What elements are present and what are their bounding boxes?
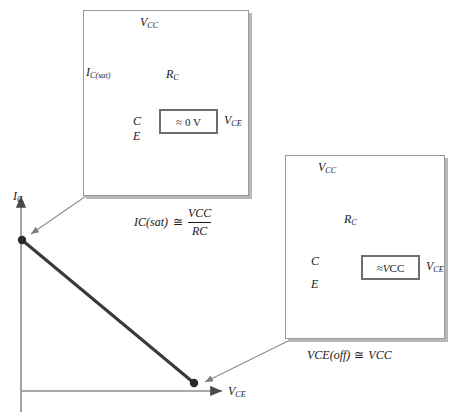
- caption-denominator: RC: [192, 224, 207, 239]
- figure-canvas: ≈ 0 V ≈VCC VCC RC IC(sat) C E VCE VCC RC…: [0, 0, 471, 420]
- voltmeter-reading-cutoff: ≈VCC: [377, 262, 404, 274]
- cutoff-circuit-panel: [285, 155, 445, 339]
- saturation-circuit-panel: [83, 10, 249, 196]
- label-terminal-e-2: E: [311, 278, 318, 290]
- caption-lhs-2: VCE(off): [307, 348, 350, 362]
- label-terminal-c-1: C: [133, 115, 141, 127]
- leader-line-cutoff: [205, 341, 288, 382]
- voltmeter-cutoff: ≈VCC: [361, 255, 420, 280]
- cutoff-point-marker: [190, 379, 198, 387]
- fraction-bar: [188, 222, 211, 223]
- label-vce-meter-1: VCE: [224, 114, 242, 128]
- axis-label-ic: IC: [13, 190, 22, 204]
- label-vcc-2: VCC: [318, 161, 336, 175]
- label-rc-2: RC: [344, 213, 357, 227]
- caption-saturation-formula: IC(sat) ≅ VCC RC: [134, 206, 211, 239]
- caption-relation: ≅: [173, 215, 183, 230]
- saturation-point-marker: [18, 236, 26, 244]
- label-terminal-c-2: C: [311, 255, 319, 267]
- caption-numerator: VCC: [188, 206, 211, 221]
- caption-cutoff-formula: VCE(off)≅VCC: [307, 348, 392, 363]
- label-vce-meter-2: VCE: [426, 260, 444, 274]
- label-vcc-1: VCC: [140, 16, 158, 30]
- axis-label-vce: VCE: [228, 385, 246, 399]
- label-terminal-e-1: E: [133, 130, 140, 142]
- label-ic-sat: IC(sat): [86, 66, 110, 80]
- leader-line-saturation: [31, 196, 86, 234]
- voltmeter-reading-saturation: ≈ 0 V: [176, 116, 201, 128]
- caption-fraction: VCC RC: [188, 206, 211, 239]
- caption-rhs-2: VCC: [368, 348, 391, 362]
- voltmeter-saturation: ≈ 0 V: [159, 109, 218, 134]
- label-rc-1: RC: [166, 68, 179, 82]
- load-line: [22, 240, 194, 383]
- caption-lhs: IC(sat): [134, 215, 168, 230]
